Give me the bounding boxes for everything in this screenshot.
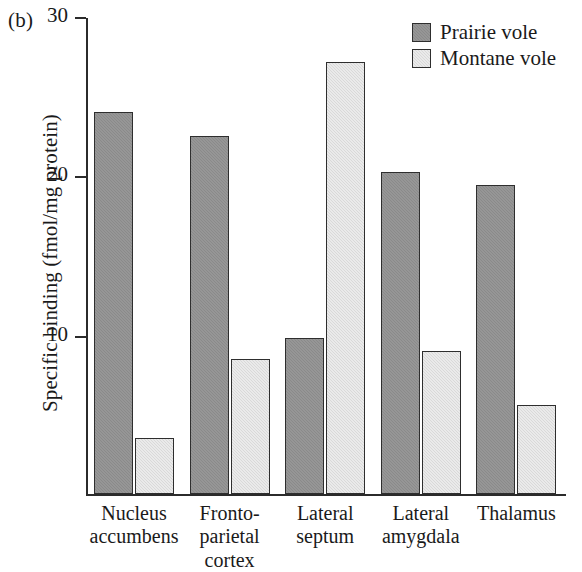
x-axis-category-label-line: Thalamus — [451, 502, 581, 525]
y-axis-tick-label-10: 10 — [47, 324, 68, 345]
x-axis-category-label-line: amygdala — [356, 525, 486, 548]
bar — [190, 136, 229, 495]
legend-item-prairie-vole: Prairie vole — [412, 22, 556, 43]
x-axis-category-labels: NucleusaccumbensFronto-parietalcortexLat… — [86, 502, 566, 572]
plot-area: 102030 — [86, 18, 566, 496]
y-axis-tick-20: 20 — [75, 176, 86, 178]
x-axis-line — [86, 494, 566, 496]
legend-label-prairie-vole: Prairie vole — [440, 22, 537, 43]
bar — [517, 405, 556, 494]
bar — [326, 62, 365, 494]
y-axis-tick-30: 30 — [75, 17, 86, 19]
x-axis-category-label: Thalamus — [451, 502, 581, 525]
bar — [381, 172, 420, 494]
y-axis-tick-10: 10 — [75, 336, 86, 338]
legend-swatch-prairie-icon — [412, 23, 431, 42]
bar — [422, 351, 461, 494]
bar-group — [285, 18, 365, 494]
legend-swatch-montane-icon — [412, 49, 431, 68]
y-axis-title-wrapper: Specific binding (fmol/mg protein) — [37, 33, 63, 493]
legend-label-montane-vole: Montane vole — [440, 48, 556, 69]
bar-series-container — [88, 18, 566, 494]
bar — [476, 185, 515, 494]
y-axis-tick-label-30: 30 — [47, 5, 68, 26]
bar — [231, 359, 270, 494]
panel-label: (b) — [8, 10, 33, 31]
bar-group — [190, 18, 270, 494]
x-axis-category-label-line: cortex — [165, 549, 295, 572]
bar-group — [381, 18, 461, 494]
figure-panel-b: (b) Specific binding (fmol/mg protein) 1… — [0, 0, 582, 572]
bar-group — [476, 18, 556, 494]
bar — [285, 338, 324, 494]
bar — [135, 438, 174, 494]
y-axis-tick-label-20: 20 — [47, 165, 68, 186]
legend: Prairie vole Montane vole — [412, 22, 556, 69]
legend-item-montane-vole: Montane vole — [412, 48, 556, 69]
y-axis-title: Specific binding (fmol/mg protein) — [38, 114, 63, 412]
bar — [94, 112, 133, 494]
bar-group — [94, 18, 174, 494]
